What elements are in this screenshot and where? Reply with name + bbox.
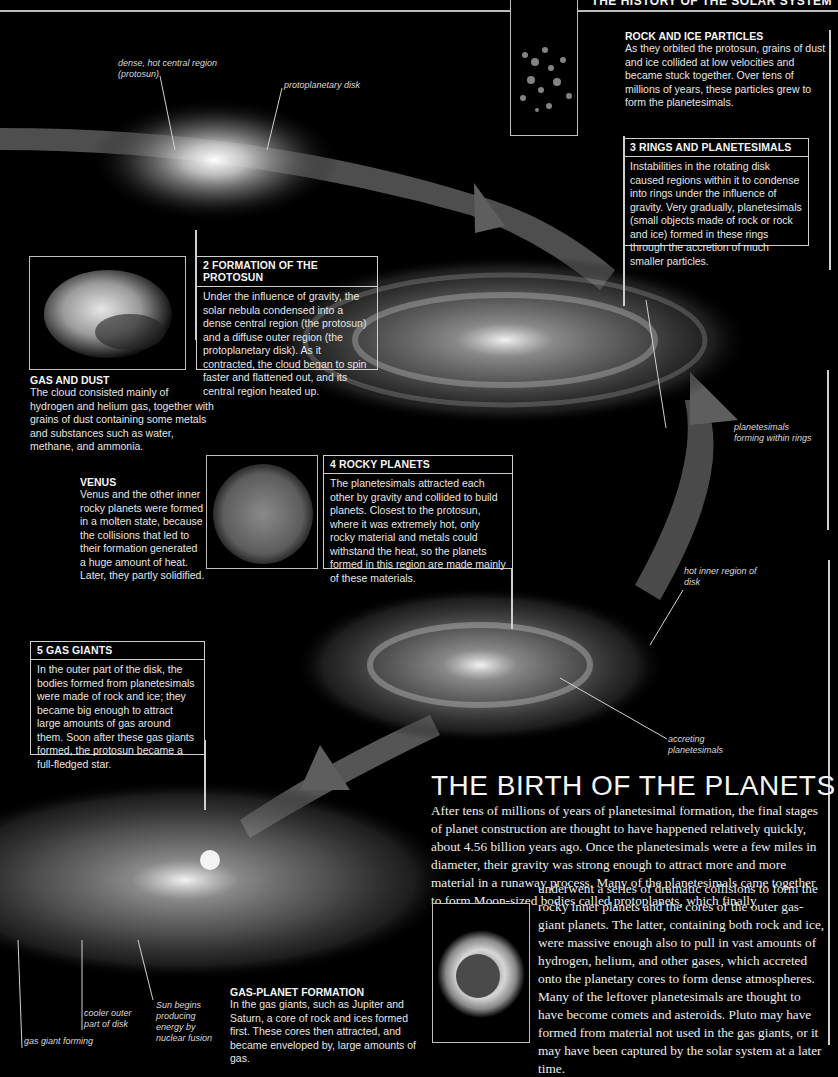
divider-right-bottom	[828, 560, 830, 1045]
step3-body: Instabilities in the rotating disk cause…	[624, 157, 808, 274]
step3-title: 3 RINGS AND PLANETESIMALS	[624, 139, 808, 157]
venus-title: VENUS	[80, 476, 205, 488]
label-sun-begins: Sun begins producing energy by nuclear f…	[156, 1000, 216, 1044]
label-gas-giant-forming: gas giant forming	[24, 1036, 93, 1047]
gas-dust-image	[29, 256, 186, 370]
step4-box: 4 ROCKY PLANETS The planetesimals attrac…	[323, 455, 513, 569]
divider-right-mid	[827, 370, 829, 530]
birth-para-bottom: underwent a series of dramatic collision…	[538, 880, 828, 1077]
step2-body: Under the influence of gravity, the sola…	[197, 287, 377, 404]
rock-ice-body: As they orbited the protosun, grains of …	[625, 42, 830, 110]
step5-title: 5 GAS GIANTS	[31, 642, 204, 660]
gas-planet-body: In the gas giants, such as Jupiter and S…	[230, 998, 430, 1066]
label-rings: planetesimals forming within rings	[734, 422, 814, 444]
venus-caption: VENUS Venus and the other inner rocky pl…	[80, 476, 205, 583]
step4-body: The planetesimals attracted each other b…	[324, 474, 512, 591]
gas-dust-body: The cloud consisted mainly of hydrogen a…	[30, 386, 215, 454]
gas-dust-caption: GAS AND DUST The cloud consisted mainly …	[30, 374, 215, 454]
venus-body: Venus and the other inner rocky planets …	[80, 488, 205, 583]
divider-right-top	[829, 30, 831, 270]
gas-giant-core-image	[432, 903, 530, 1043]
label-cooler-outer: cooler outer part of disk	[84, 1008, 144, 1030]
step5-connector	[204, 740, 206, 810]
gas-dust-title: GAS AND DUST	[30, 374, 215, 386]
label-accreting: accreting planetesimals	[668, 734, 738, 756]
step4-title: 4 ROCKY PLANETS	[324, 456, 512, 474]
venus-image	[206, 455, 318, 569]
rock-ice-image	[510, 0, 578, 136]
gas-planet-caption: GAS-PLANET FORMATION In the gas giants, …	[230, 986, 430, 1066]
step5-body: In the outer part of the disk, the bodie…	[31, 660, 204, 777]
step4-connector	[511, 569, 513, 629]
rock-ice-title: ROCK AND ICE PARTICLES	[625, 30, 830, 42]
step2-title: 2 FORMATION OF THE PROTOSUN	[197, 257, 377, 287]
label-hot-inner: hot inner region of disk	[684, 566, 764, 588]
step3-box: 3 RINGS AND PLANETESIMALS Instabilities …	[623, 138, 809, 246]
gas-planet-title: GAS-PLANET FORMATION	[230, 986, 430, 998]
birth-title: THE BIRTH OF THE PLANETS	[431, 770, 836, 802]
step5-box: 5 GAS GIANTS In the outer part of the di…	[30, 641, 205, 755]
rock-ice-caption: ROCK AND ICE PARTICLES As they orbited t…	[625, 30, 830, 110]
step2-box: 2 FORMATION OF THE PROTOSUN Under the in…	[196, 256, 378, 370]
